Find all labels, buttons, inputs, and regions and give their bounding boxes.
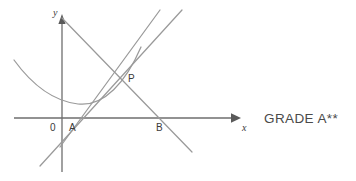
y-axis-arrowhead xyxy=(58,14,65,24)
x-axis-label: x xyxy=(241,122,247,133)
graph-canvas: 0 A B P x y xyxy=(0,0,356,181)
tangent-line-at-p xyxy=(40,10,182,166)
point-label-b: B xyxy=(156,122,163,133)
point-label-a: A xyxy=(69,122,76,133)
figure-root: 0 A B P x y GRADE A** xyxy=(0,0,356,181)
line-through-a-and-b xyxy=(62,18,192,152)
origin-label: 0 xyxy=(50,122,56,133)
x-axis-arrowhead xyxy=(231,113,241,123)
grade-caption: GRADE A** xyxy=(264,111,338,126)
point-label-p: P xyxy=(128,73,135,84)
y-axis-label: y xyxy=(52,7,58,18)
